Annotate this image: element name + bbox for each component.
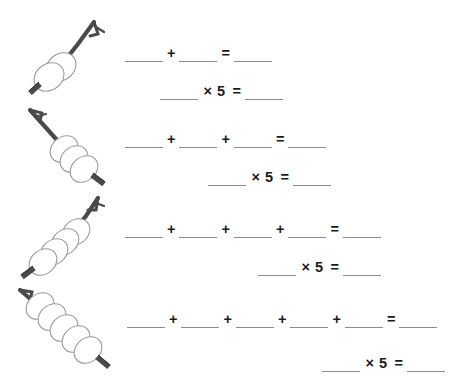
addend-blank[interactable]	[127, 312, 165, 328]
sum-blank[interactable]	[343, 222, 381, 238]
worksheet-page: + = × 5 =	[0, 0, 458, 382]
factor-blank[interactable]	[208, 170, 246, 186]
sum-blank[interactable]	[288, 132, 326, 148]
cocoons-on-stick-illustration-4	[12, 282, 130, 378]
addend-blank[interactable]	[125, 46, 163, 62]
equation-group: + = × 5 =	[124, 36, 284, 100]
addend-blank[interactable]	[236, 312, 274, 328]
multiplication-equation: × 5 =	[124, 74, 284, 100]
addend-blank[interactable]	[345, 312, 383, 328]
plus-symbol: +	[218, 132, 232, 147]
problem-row: + + + = × 5 =	[0, 192, 458, 280]
addend-blank[interactable]	[288, 222, 326, 238]
problem-row: + + + + = × 5 =	[0, 282, 458, 378]
factor-blank[interactable]	[322, 356, 360, 372]
times-five-label: × 5	[297, 260, 327, 275]
cocoons-on-stick-illustration-3	[12, 192, 122, 280]
equals-symbol: =	[278, 170, 292, 185]
product-blank[interactable]	[343, 260, 381, 276]
plus-symbol: +	[218, 222, 232, 237]
addend-blank[interactable]	[125, 222, 163, 238]
equation-group: + + + = × 5 =	[124, 212, 382, 276]
plus-symbol: +	[164, 222, 178, 237]
plus-symbol: +	[275, 312, 289, 327]
addend-blank[interactable]	[179, 222, 217, 238]
times-five-label: × 5	[199, 84, 229, 99]
addend-blank[interactable]	[179, 46, 217, 62]
plus-symbol: +	[164, 132, 178, 147]
product-blank[interactable]	[407, 356, 445, 372]
line-spacer	[124, 238, 382, 250]
factor-blank[interactable]	[258, 260, 296, 276]
addition-equation: + + =	[124, 122, 332, 148]
equals-symbol: =	[230, 84, 244, 99]
product-blank[interactable]	[245, 84, 283, 100]
equals-symbol: =	[392, 356, 406, 371]
addition-equation: + + + =	[124, 212, 382, 238]
plus-symbol: +	[164, 46, 178, 61]
addend-blank[interactable]	[290, 312, 328, 328]
plus-symbol: +	[273, 222, 287, 237]
problem-row: + + = × 5 =	[0, 102, 458, 190]
line-spacer	[124, 62, 284, 74]
multiplication-equation: × 5 =	[126, 346, 446, 372]
equals-symbol: =	[273, 132, 287, 147]
addition-equation: + + + + =	[126, 302, 446, 328]
times-five-label: × 5	[361, 356, 391, 371]
addend-blank[interactable]	[234, 132, 272, 148]
equals-symbol: =	[328, 260, 342, 275]
plus-symbol: +	[220, 312, 234, 327]
equation-group: + + + + = × 5 =	[126, 302, 446, 372]
equals-symbol: =	[384, 312, 398, 327]
addition-equation: + =	[124, 36, 284, 62]
sum-blank[interactable]	[399, 312, 437, 328]
addend-blank[interactable]	[179, 132, 217, 148]
multiplication-equation: × 5 =	[124, 250, 382, 276]
cocoons-on-stick-illustration-1	[12, 14, 122, 100]
cocoons-on-stick-illustration-2	[12, 102, 122, 190]
sum-blank[interactable]	[234, 46, 272, 62]
line-spacer	[124, 148, 332, 160]
times-five-label: × 5	[247, 170, 277, 185]
line-spacer	[126, 328, 446, 346]
equals-symbol: =	[218, 46, 232, 61]
addend-blank[interactable]	[181, 312, 219, 328]
plus-symbol: +	[166, 312, 180, 327]
plus-symbol: +	[329, 312, 343, 327]
equals-symbol: =	[327, 222, 341, 237]
factor-blank[interactable]	[160, 84, 198, 100]
addend-blank[interactable]	[125, 132, 163, 148]
equation-group: + + = × 5 =	[124, 122, 332, 186]
product-blank[interactable]	[293, 170, 331, 186]
addend-blank[interactable]	[234, 222, 272, 238]
multiplication-equation: × 5 =	[124, 160, 332, 186]
problem-row: + = × 5 =	[0, 14, 458, 100]
